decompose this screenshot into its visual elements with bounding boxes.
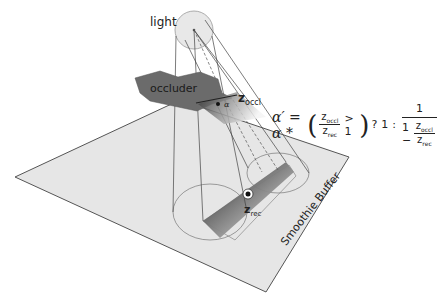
- diagram-canvas: [0, 0, 437, 304]
- inner-fraction: zoccl zrec: [414, 120, 435, 147]
- formula-lhs: α′ = α *: [272, 109, 307, 141]
- cond-numerator: zoccl: [319, 111, 340, 125]
- cond-denominator: zrec: [321, 125, 340, 138]
- alpha-formula: α′ = α * ( zoccl zrec > 1 ) ? 1 : 1 1 − …: [272, 102, 437, 147]
- soft-shadow-diagram: light occluder α zoccl zrec Smoothie Buf…: [0, 0, 437, 304]
- cond-den-sub: rec: [328, 131, 337, 138]
- inner-numerator: zoccl: [414, 120, 435, 134]
- z-rec-sub: rec: [250, 210, 261, 218]
- cond-op: > 1: [344, 112, 357, 138]
- false-den-prefix: 1 −: [402, 121, 412, 147]
- cond-fraction: zoccl zrec: [319, 111, 340, 138]
- z-rec-label: zrec: [244, 203, 261, 218]
- alpha-point: [216, 102, 220, 106]
- false-denominator: 1 − zoccl zrec: [402, 118, 437, 147]
- z-occl-main: z: [238, 91, 245, 105]
- cond-num-sub: occl: [327, 117, 339, 124]
- z-occl-sub: occl: [245, 98, 261, 107]
- true-val: 1: [381, 118, 388, 131]
- light-label: light: [150, 15, 177, 29]
- false-numerator: 1: [402, 102, 437, 118]
- z-occl-label: zoccl: [238, 91, 261, 107]
- alpha-label: α: [224, 100, 229, 109]
- receiver-point: [246, 192, 251, 197]
- inner-num-sub: occl: [421, 126, 433, 133]
- false-fraction: 1 1 − zoccl zrec: [402, 102, 437, 147]
- ternary-colon: :: [392, 118, 396, 131]
- ternary-q: ?: [371, 118, 377, 131]
- occluder-label: occluder: [150, 82, 197, 95]
- inner-denominator: zrec: [415, 134, 434, 147]
- close-paren: ): [359, 112, 369, 138]
- open-paren: (: [307, 112, 317, 138]
- inner-den-sub: rec: [422, 140, 431, 147]
